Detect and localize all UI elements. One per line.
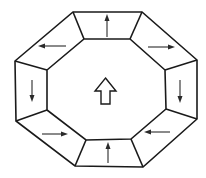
divider-left-bottom [16, 110, 47, 121]
arrow-up-icon [105, 14, 110, 37]
divider-bottom-right [131, 139, 143, 167]
divider-bottom-left [75, 140, 86, 166]
center-up-arrow-icon [95, 78, 116, 104]
arrow-left-icon [38, 44, 66, 49]
divider-top-right [130, 12, 142, 39]
divider-top-left [73, 12, 84, 39]
arrow-left-icon [144, 130, 170, 135]
diagram-canvas [0, 0, 206, 178]
arrow-right-icon [148, 45, 175, 50]
arrow-down-icon [30, 80, 35, 102]
arrow-down-icon [178, 80, 183, 103]
octagon-flow-diagram [0, 0, 206, 178]
divider-left-top [15, 61, 47, 70]
arrow-up-icon [106, 142, 111, 163]
divider-right-top [165, 60, 197, 70]
divider-right-bottom [166, 109, 197, 119]
arrow-right-icon [42, 132, 68, 137]
